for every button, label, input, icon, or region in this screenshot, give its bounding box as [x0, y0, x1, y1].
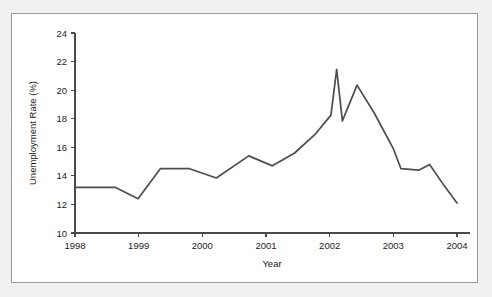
y-tick-label: 14	[56, 170, 67, 181]
y-tick-label: 10	[56, 228, 67, 239]
chart-root: 1012141618202224 19981999200020012002200…	[0, 0, 492, 297]
x-tick-label: 2004	[446, 240, 467, 251]
x-tick-label: 1998	[64, 240, 85, 251]
y-axis-title: Unemployment Rate (%)	[27, 81, 38, 185]
x-tick-label: 2002	[319, 240, 340, 251]
y-tick-label: 16	[56, 142, 67, 153]
y-tick-label: 20	[56, 85, 67, 96]
x-axis-title: Year	[262, 258, 281, 269]
x-tick-label: 2003	[383, 240, 404, 251]
line-chart: 1012141618202224 19981999200020012002200…	[0, 0, 492, 297]
y-tick-label: 18	[56, 113, 67, 124]
y-tick-group: 1012141618202224	[56, 28, 75, 239]
x-tick-label: 2001	[255, 240, 276, 251]
y-axis-group: 1012141618202224	[56, 28, 75, 239]
y-tick-label: 24	[56, 28, 67, 39]
x-tick-group: 1998199920002001200220032004	[64, 233, 467, 251]
y-tick-label: 22	[56, 56, 67, 67]
y-tick-label: 12	[56, 199, 67, 210]
x-axis-group: 1998199920002001200220032004	[64, 233, 470, 251]
x-tick-label: 1999	[128, 240, 149, 251]
x-tick-label: 2000	[192, 240, 213, 251]
data-line-unemployment-rate	[75, 69, 457, 203]
